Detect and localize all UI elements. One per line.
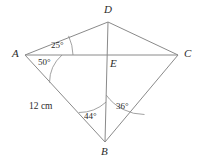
angle-label-DBC: 36° — [116, 102, 129, 111]
edge-BA — [25, 55, 105, 142]
diagram-canvas — [0, 0, 197, 164]
edge-DC — [108, 22, 178, 55]
angle-arc-CAB — [50, 55, 63, 83]
geometry-diagram: A D C B E 25° 50° 44° 36° 12 cm — [0, 0, 197, 164]
angle-label-ABD: 44° — [84, 112, 97, 121]
vertex-label-C: C — [184, 48, 191, 59]
vertex-label-A: A — [12, 48, 19, 59]
angle-label-CAB: 50° — [38, 58, 51, 67]
diagonal-DB — [105, 22, 108, 142]
vertex-label-B: B — [101, 146, 108, 157]
vertex-label-D: D — [104, 4, 112, 15]
edge-AD — [25, 22, 108, 55]
vertex-label-E: E — [110, 58, 117, 69]
angle-arc-DAC — [69, 36, 73, 55]
angle-label-DAC: 25° — [51, 41, 64, 50]
side-label-AB: 12 cm — [29, 102, 52, 112]
